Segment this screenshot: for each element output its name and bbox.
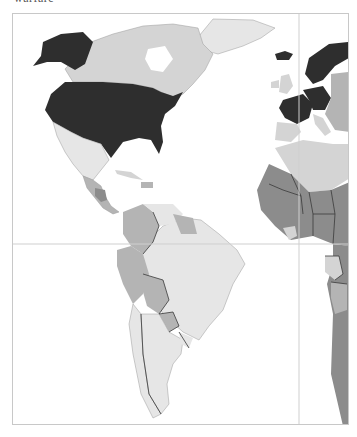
region-greenland[interactable] [199, 19, 275, 54]
region-alaska[interactable] [33, 32, 93, 70]
region-ireland[interactable] [271, 80, 279, 88]
region-hispaniola[interactable] [141, 182, 153, 188]
world-map[interactable] [13, 14, 349, 425]
region-spain[interactable] [275, 122, 301, 142]
region-uk[interactable] [279, 74, 293, 94]
region-cuba[interactable] [115, 170, 143, 180]
map-frame[interactable] [12, 13, 349, 425]
map-caption: warfare [14, 0, 54, 6]
region-france[interactable] [279, 94, 313, 124]
region-iceland[interactable] [275, 51, 293, 60]
